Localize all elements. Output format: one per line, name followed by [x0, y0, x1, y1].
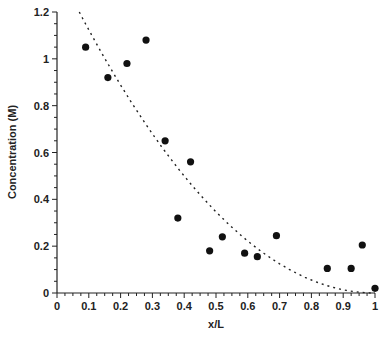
- data-point: [348, 265, 355, 272]
- data-point: [123, 60, 130, 67]
- data-point: [162, 137, 169, 144]
- fit-line: [79, 12, 375, 293]
- y-tick-label: 0.6: [34, 147, 49, 159]
- scatter-chart: 00.10.20.30.40.50.60.70.80.9100.20.40.60…: [0, 0, 384, 343]
- data-point: [254, 253, 261, 260]
- fit-curve: [79, 12, 375, 293]
- x-tick-label: 0.3: [145, 300, 160, 312]
- data-point: [82, 44, 89, 51]
- x-tick-label: 0.7: [272, 300, 287, 312]
- data-point: [241, 250, 248, 257]
- data-point: [273, 232, 280, 239]
- y-tick-label: 0.2: [34, 240, 49, 252]
- y-tick-label: 1: [43, 53, 49, 65]
- data-point: [219, 233, 226, 240]
- y-tick-label: 0: [43, 287, 49, 299]
- data-point: [104, 74, 111, 81]
- data-point: [324, 265, 331, 272]
- data-points: [82, 37, 379, 292]
- data-point: [174, 214, 181, 221]
- data-point: [142, 37, 149, 44]
- y-tick-label: 0.4: [34, 193, 50, 205]
- x-tick-label: 0.5: [208, 300, 223, 312]
- x-axis-title: x/L: [208, 318, 224, 330]
- x-tick-label: 0: [54, 300, 60, 312]
- x-tick-label: 0.2: [113, 300, 128, 312]
- x-tick-label: 0.9: [336, 300, 351, 312]
- y-tick-label: 0.8: [34, 100, 49, 112]
- data-point: [371, 285, 378, 292]
- data-point: [187, 158, 194, 165]
- y-tick-label: 1.2: [34, 6, 49, 18]
- data-point: [206, 247, 213, 254]
- x-tick-label: 1: [372, 300, 378, 312]
- y-axis-title: Concentration (M): [6, 105, 18, 199]
- x-tick-label: 0.6: [240, 300, 255, 312]
- data-point: [359, 241, 366, 248]
- x-tick-label: 0.8: [304, 300, 319, 312]
- x-tick-label: 0.4: [177, 300, 193, 312]
- x-tick-label: 0.1: [81, 300, 96, 312]
